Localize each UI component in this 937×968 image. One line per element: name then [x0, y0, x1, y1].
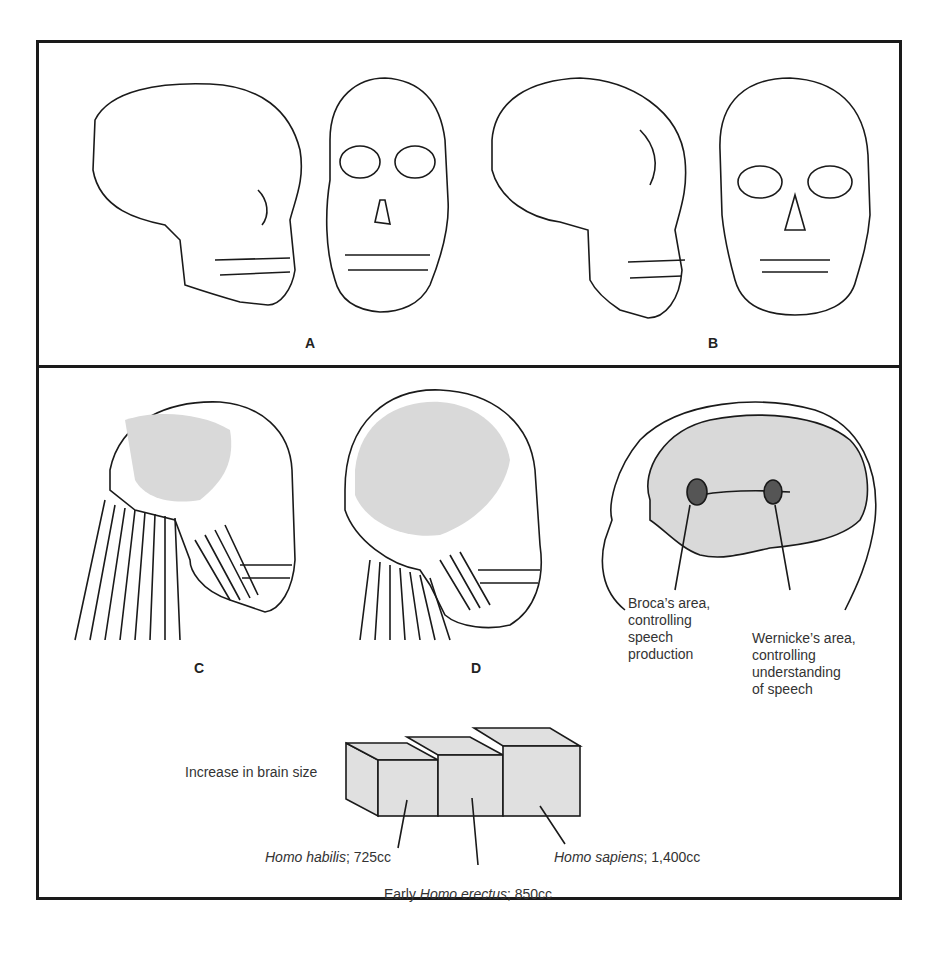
brain-size-title: Increase in brain size	[185, 764, 317, 781]
wernicke-line-2: controlling	[752, 647, 856, 664]
erectus-value: ; 850cc	[507, 886, 552, 902]
figure-artwork	[0, 0, 937, 968]
sapiens-muscle-head-icon	[345, 390, 541, 640]
broca-line-2: controlling	[628, 612, 710, 629]
wernicke-line-4: of speech	[752, 681, 856, 698]
broca-area-label: Broca’s area, controlling speech product…	[628, 595, 710, 663]
erectus-species: Homo erectus	[420, 886, 507, 902]
erectus-label: Early Homo erectus; 850cc	[384, 886, 552, 903]
broca-line-4: production	[628, 646, 710, 663]
panel-label-c: C	[194, 660, 204, 676]
sapiens-species: Homo sapiens	[554, 849, 644, 865]
sapiens-side-skull-icon	[492, 78, 686, 318]
habilis-value: ; 725cc	[346, 849, 391, 865]
sapiens-front-skull-icon	[720, 78, 870, 315]
erectus-front-skull-icon	[327, 78, 449, 312]
wernicke-line-1: Wernicke’s area,	[752, 630, 856, 647]
erectus-muscle-head-icon	[75, 402, 295, 640]
wernicke-area-label: Wernicke’s area, controlling understandi…	[752, 630, 856, 698]
brain-size-blocks-icon	[346, 728, 580, 865]
broca-line-3: speech	[628, 629, 710, 646]
brain-with-head-outline-icon	[602, 402, 875, 610]
habilis-label: Homo habilis; 725cc	[265, 849, 391, 866]
sapiens-value: ; 1,400cc	[644, 849, 701, 865]
sapiens-label: Homo sapiens; 1,400cc	[554, 849, 700, 866]
panel-label-b: B	[708, 335, 718, 351]
erectus-prefix: Early	[384, 886, 420, 902]
erectus-side-skull-icon	[93, 84, 301, 305]
habilis-species: Homo habilis	[265, 849, 346, 865]
panel-label-d: D	[471, 660, 481, 676]
broca-line-1: Broca’s area,	[628, 595, 710, 612]
wernicke-line-3: understanding	[752, 664, 856, 681]
panel-label-a: A	[305, 335, 315, 351]
